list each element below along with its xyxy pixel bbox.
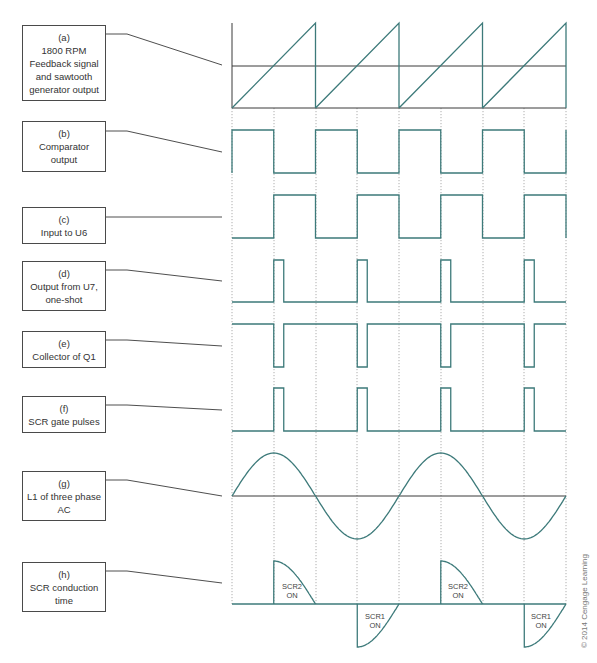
label-text-b: output (51, 153, 77, 166)
leader-line-d (106, 270, 222, 281)
leader-line-h (106, 571, 222, 583)
leader-line-f (106, 405, 222, 410)
label-tag-a: (a) (58, 31, 70, 44)
label-box-f: (f)SCR gate pulses (22, 396, 106, 433)
label-box-d: (d)Output from U7,one-shot (22, 261, 106, 311)
label-text-b: Comparator (39, 140, 89, 153)
label-tag-c: (c) (58, 213, 69, 226)
scr-gate-pulse-wave (232, 388, 566, 431)
label-text-f: SCR gate pulses (28, 415, 99, 428)
leader-line-e (106, 340, 222, 346)
u6-input-wave (232, 195, 566, 238)
leader-line-a (106, 34, 222, 65)
label-text-a: 1800 RPM (42, 44, 87, 57)
label-text-d: Output from U7, (30, 280, 98, 293)
label-tag-e: (e) (58, 337, 70, 350)
dotted-guide-lines (232, 108, 566, 604)
label-box-g: (g)L1 of three phaseAC (22, 471, 106, 521)
scr1-on-annotation-2: SCR1 ON (526, 612, 556, 630)
comparator-output-wave (232, 130, 566, 173)
label-box-b: (b)Comparatoroutput (22, 121, 106, 172)
waveforms (232, 23, 566, 647)
label-text-a: and sawtooth (36, 70, 93, 83)
one-shot-output-wave (232, 260, 566, 302)
label-box-a: (a)1800 RPMFeedback signaland sawtoothge… (22, 25, 106, 101)
leader-line-b (106, 131, 222, 152)
leader-line-g (106, 480, 222, 496)
label-tag-f: (f) (60, 402, 69, 415)
label-text-c: Input to U6 (41, 226, 87, 239)
label-tag-d: (d) (58, 267, 70, 280)
scr2-on-annotation-2: SCR2 ON (443, 582, 473, 600)
label-box-h: (h)SCR conductiontime (22, 562, 106, 612)
label-text-g: L1 of three phase (27, 490, 101, 503)
leader-lines (106, 34, 222, 583)
label-text-d: one-shot (46, 293, 83, 306)
label-text-e: Collector of Q1 (32, 350, 95, 363)
scr1-on-annotation-1: SCR1 ON (360, 612, 390, 630)
scr2-on-annotation-1: SCR2 ON (277, 582, 307, 600)
label-tag-g: (g) (58, 477, 70, 490)
label-text-g: AC (57, 503, 70, 516)
label-box-c: (c)Input to U6 (22, 207, 106, 244)
label-tag-b: (b) (58, 127, 70, 140)
label-text-h: time (55, 594, 73, 607)
label-text-a: Feedback signal (29, 57, 98, 70)
label-text-a: generator output (29, 83, 99, 96)
label-tag-h: (h) (58, 568, 70, 581)
label-text-h: SCR conduction (30, 581, 99, 594)
label-box-e: (e)Collector of Q1 (22, 331, 106, 368)
copyright-notice: © 2014 Cengage Learning (580, 554, 589, 648)
